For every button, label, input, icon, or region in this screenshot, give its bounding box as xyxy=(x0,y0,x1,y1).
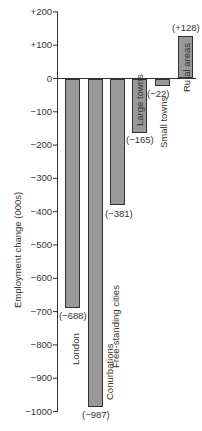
category-label: Large towns xyxy=(134,74,145,126)
category-label: Rural areas xyxy=(181,43,192,92)
y-tick-label: −1000 xyxy=(4,406,52,417)
employment-change-bar-chart: +200+1000−100−200−300−400−500−600−700−80… xyxy=(0,0,202,431)
y-tick-label: −900 xyxy=(4,372,52,383)
bar-value-label: (−987) xyxy=(82,409,110,420)
bar-value-label: (−688) xyxy=(59,310,87,321)
y-tick-label: +200 xyxy=(4,6,52,17)
category-label: Free-standing cities xyxy=(110,285,121,368)
bar-small-towns xyxy=(155,79,170,86)
bar-london xyxy=(65,79,80,308)
bar-value-label: (+128) xyxy=(172,22,200,33)
y-tick-label: −100 xyxy=(4,106,52,117)
y-tick-label: −800 xyxy=(4,339,52,350)
category-label: London xyxy=(70,333,81,365)
bar-free-standing-cities xyxy=(110,79,125,206)
y-tick-label: −300 xyxy=(4,172,52,183)
y-tick-label: 0 xyxy=(4,73,52,84)
bar-value-label: (−165) xyxy=(126,134,154,145)
category-label: Small towns xyxy=(158,97,169,148)
bar-conurbations xyxy=(88,79,103,408)
bar-value-label: (−381) xyxy=(105,208,133,219)
y-tick-label: −200 xyxy=(4,139,52,150)
y-axis-label: Employment change (000s) xyxy=(12,192,23,308)
y-tick-label: +100 xyxy=(4,39,52,50)
